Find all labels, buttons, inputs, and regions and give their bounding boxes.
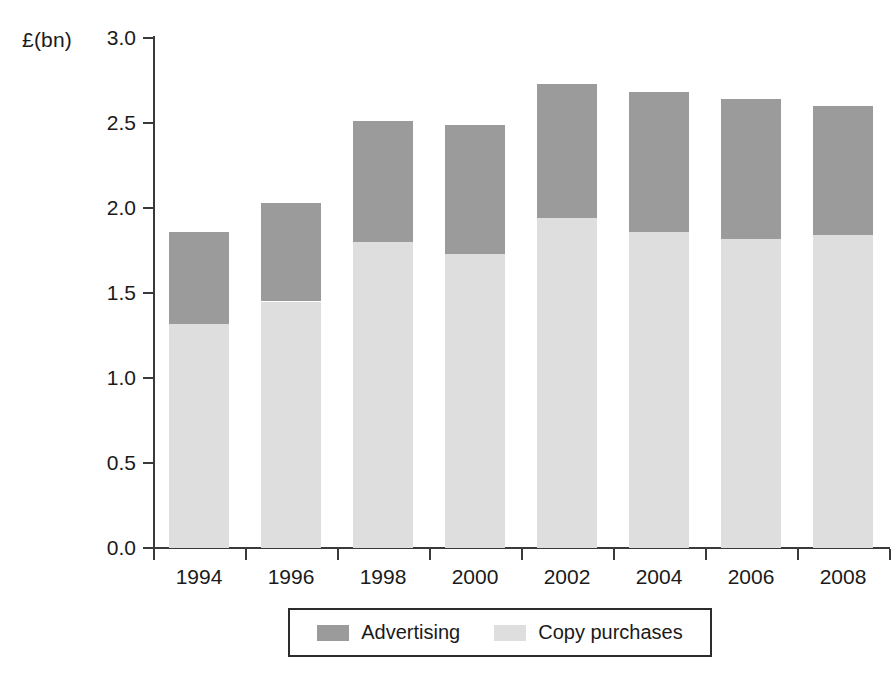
legend-swatch-copy-purchases (494, 625, 526, 641)
bar-segment-advertising (813, 106, 873, 235)
legend-swatch-advertising (317, 625, 349, 641)
y-tick-label: 2.0 (82, 194, 136, 222)
y-tick-label: 1.5 (82, 279, 136, 307)
x-tick-mark (429, 549, 431, 560)
stacked-bar (261, 38, 321, 548)
bar-segment-advertising (721, 99, 781, 238)
y-tick-mark (143, 37, 153, 39)
x-tick-label: 2006 (706, 565, 796, 589)
y-tick-label: 2.5 (82, 109, 136, 137)
y-tick-mark (143, 122, 153, 124)
x-tick-mark (245, 549, 247, 560)
y-tick-label: 3.0 (82, 24, 136, 52)
legend-item-copy-purchases: Copy purchases (494, 621, 683, 644)
y-tick-label: 0.5 (82, 449, 136, 477)
y-tick-mark (143, 547, 153, 549)
stacked-bar (629, 38, 689, 548)
x-tick-mark (705, 549, 707, 560)
x-tick-label: 2002 (522, 565, 612, 589)
y-tick-mark (143, 292, 153, 294)
stacked-bar (353, 38, 413, 548)
y-tick-mark (143, 462, 153, 464)
y-axis-title: £(bn) (22, 28, 72, 52)
stacked-bar (721, 38, 781, 548)
x-tick-mark (337, 549, 339, 560)
stacked-bar (169, 38, 229, 548)
x-tick-mark (889, 549, 891, 560)
bar-segment-advertising (169, 232, 229, 324)
bar-segment-copy-purchases (353, 242, 413, 548)
legend-label-copy-purchases: Copy purchases (538, 621, 683, 644)
x-tick-mark (521, 549, 523, 560)
y-tick-label: 0.0 (82, 534, 136, 562)
y-tick-mark (143, 377, 153, 379)
bar-segment-advertising (445, 125, 505, 254)
bar-segment-copy-purchases (261, 302, 321, 549)
stacked-bar (445, 38, 505, 548)
x-tick-label: 1998 (338, 565, 428, 589)
bar-segment-advertising (261, 203, 321, 302)
bar-segment-copy-purchases (537, 218, 597, 548)
y-axis-line (153, 36, 155, 550)
x-tick-label: 1994 (154, 565, 244, 589)
bar-segment-copy-purchases (169, 324, 229, 548)
bar-segment-copy-purchases (721, 239, 781, 548)
bar-segment-advertising (537, 84, 597, 218)
legend-label-advertising: Advertising (361, 621, 460, 644)
stacked-bar (813, 38, 873, 548)
bar-segment-copy-purchases (445, 254, 505, 548)
y-tick-label: 1.0 (82, 364, 136, 392)
x-tick-mark (153, 549, 155, 560)
x-tick-label: 1996 (246, 565, 336, 589)
x-tick-label: 2004 (614, 565, 704, 589)
stacked-bar-chart: £(bn) 0.00.51.01.52.02.53.0 199419961998… (0, 0, 894, 679)
x-tick-mark (797, 549, 799, 560)
bar-segment-copy-purchases (629, 232, 689, 548)
x-tick-label: 2000 (430, 565, 520, 589)
bar-segment-advertising (629, 92, 689, 231)
bar-segment-copy-purchases (813, 235, 873, 548)
legend-item-advertising: Advertising (317, 621, 460, 644)
bar-segment-advertising (353, 121, 413, 242)
x-tick-mark (613, 549, 615, 560)
stacked-bar (537, 38, 597, 548)
chart-legend: Advertising Copy purchases (288, 608, 712, 657)
y-tick-mark (143, 207, 153, 209)
x-tick-label: 2008 (798, 565, 888, 589)
